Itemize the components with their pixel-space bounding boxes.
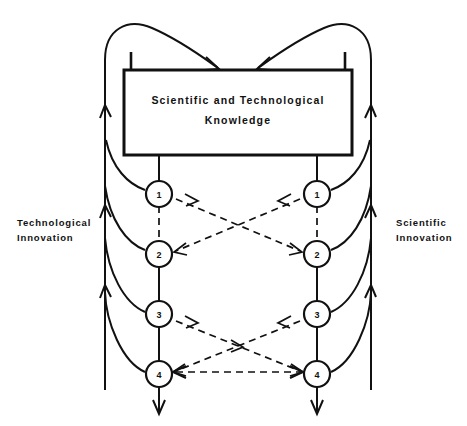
diagram-canvas: 1 2 3 4 1 2 3 4 xyxy=(0,0,467,426)
left-node-2-label: 2 xyxy=(156,250,161,260)
left-node-1[interactable]: 1 xyxy=(146,181,172,207)
knowledge-box-line1: Scientific and Technological xyxy=(151,94,324,106)
left-node-3-label: 3 xyxy=(156,310,161,320)
right-node-3[interactable]: 3 xyxy=(304,301,330,327)
right-node-1-label: 1 xyxy=(314,190,319,200)
right-node-1[interactable]: 1 xyxy=(304,181,330,207)
left-node-feeders xyxy=(105,140,145,372)
left-node-1-label: 1 xyxy=(156,190,161,200)
left-side-label: Technological Innovation xyxy=(17,217,91,243)
right-node-2-label: 2 xyxy=(314,250,319,260)
cross-r1-l2-head-left xyxy=(174,243,187,255)
right-node-feeders xyxy=(331,140,371,372)
right-side-label: Scientific Innovation xyxy=(396,217,453,243)
right-side-label-line1: Scientific xyxy=(396,217,447,228)
right-node-4[interactable]: 4 xyxy=(304,361,330,387)
left-loop-arrowhead xyxy=(205,57,219,70)
right-node-3-label: 3 xyxy=(314,310,319,320)
knowledge-box xyxy=(124,70,352,155)
left-node-2[interactable]: 2 xyxy=(146,241,172,267)
left-node-4-label: 4 xyxy=(156,370,161,380)
right-node-4-label: 4 xyxy=(314,370,319,380)
left-node-4[interactable]: 4 xyxy=(146,361,172,387)
flow-diagram: 1 2 3 4 1 2 3 4 xyxy=(0,0,467,426)
right-node-2[interactable]: 2 xyxy=(304,241,330,267)
cross-links-band-2 xyxy=(173,316,303,376)
knowledge-box-caption: Scientific and Technological Knowledge xyxy=(151,94,324,126)
left-side-label-line1: Technological xyxy=(17,217,91,228)
knowledge-box-line2: Knowledge xyxy=(205,114,271,126)
link-l4-r4 xyxy=(173,366,303,378)
cross-links-band-1 xyxy=(174,194,302,255)
left-side-label-line2: Innovation xyxy=(17,232,74,243)
right-side-label-line2: Innovation xyxy=(396,232,453,243)
right-loop-arrowhead xyxy=(257,57,271,70)
left-node-3[interactable]: 3 xyxy=(146,301,172,327)
cross-l1-r2-head-right xyxy=(289,243,302,255)
